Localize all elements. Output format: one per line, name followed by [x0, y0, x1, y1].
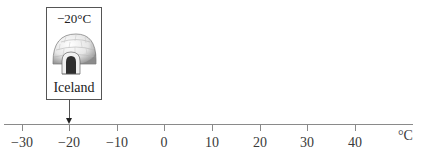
tick-label: −30 [11, 135, 33, 151]
location-card: −20°C Iceland [46, 7, 102, 100]
tick-mark [164, 124, 165, 131]
tick-label: 0 [161, 135, 168, 151]
tick-mark [69, 124, 70, 131]
axis-line [4, 124, 413, 125]
pointer-line [69, 99, 70, 118]
tick-mark [355, 124, 356, 131]
tick-mark [260, 124, 261, 131]
tick-mark [117, 124, 118, 131]
temperature-label: −20°C [47, 11, 101, 27]
unit-label: °C [398, 128, 413, 144]
place-label: Iceland [47, 80, 101, 96]
tick-label: −10 [106, 135, 128, 151]
tick-label: 30 [300, 135, 314, 151]
tick-mark [212, 124, 213, 131]
tick-label: 10 [205, 135, 219, 151]
tick-label: −20 [58, 135, 80, 151]
tick-mark [307, 124, 308, 131]
tick-label: 20 [253, 135, 267, 151]
tick-label: 40 [348, 135, 362, 151]
igloo-icon [50, 28, 98, 76]
tick-mark [22, 124, 23, 131]
arrow-down-icon [66, 118, 72, 124]
